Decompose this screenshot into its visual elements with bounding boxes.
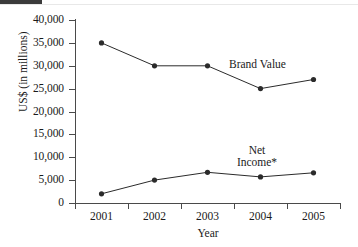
data-point	[152, 63, 157, 68]
data-point	[258, 174, 263, 179]
data-point	[205, 170, 210, 175]
data-point	[311, 170, 316, 175]
data-point	[205, 63, 210, 68]
data-point	[258, 86, 263, 91]
series-label-net-income: Net Income*	[231, 144, 283, 168]
series-plot	[0, 0, 358, 247]
data-point	[311, 77, 316, 82]
series-line-2	[102, 172, 314, 194]
data-point	[99, 40, 104, 45]
data-point	[152, 178, 157, 183]
data-point	[99, 191, 104, 196]
chart-screenshot: 40,00035,00030,00025,00020,00015,00010,0…	[0, 0, 358, 247]
series-label-brand-value: Brand Value	[229, 58, 286, 70]
